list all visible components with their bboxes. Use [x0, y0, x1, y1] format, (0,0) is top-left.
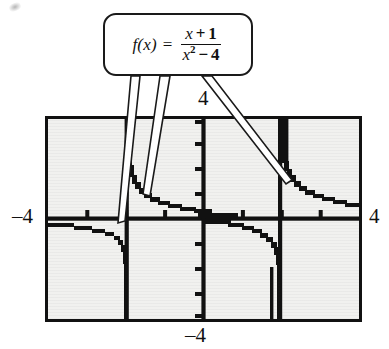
- numerator-variable: x: [185, 24, 193, 43]
- numerator-constant: 1: [208, 24, 217, 43]
- formula-expression: f(x) = x+1 x2−4: [132, 25, 223, 64]
- curve-branch-right: [282, 119, 359, 207]
- denominator-variable: x: [182, 45, 190, 64]
- axis-label-ymax: 4: [198, 88, 209, 109]
- function-plot: [48, 119, 359, 319]
- denominator-operator: −: [198, 45, 208, 64]
- calculator-screen: [45, 116, 362, 322]
- asymptote-spike-middle-lower: [270, 267, 273, 319]
- denominator-constant: 4: [211, 45, 220, 64]
- formula-equals-sign: =: [163, 35, 173, 55]
- axis-label-xmin: –4: [12, 206, 33, 227]
- formula-function-name: f(x): [132, 35, 156, 55]
- scan-smudge-artifact: [8, 1, 22, 13]
- denominator-exponent: 2: [190, 43, 196, 55]
- figure-root: –4 4 4 –4 f(x) = x+1 x2−4: [0, 0, 389, 349]
- numerator-operator: +: [196, 24, 206, 43]
- axis-label-xmax: 4: [369, 206, 380, 227]
- formula-numerator: x+1: [181, 25, 221, 45]
- formula-denominator: x2−4: [178, 45, 223, 64]
- formula-callout: f(x) = x+1 x2−4: [103, 13, 253, 76]
- axis-label-ymin: –4: [185, 325, 206, 346]
- curve-branch-left: [48, 223, 128, 319]
- formula-fraction: x+1 x2−4: [178, 25, 223, 64]
